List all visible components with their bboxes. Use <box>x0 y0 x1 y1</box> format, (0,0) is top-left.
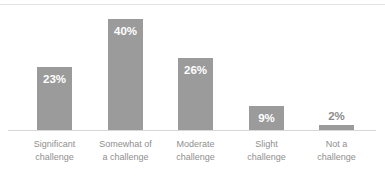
category-label-line-2: challenge <box>232 151 301 164</box>
bar-somewhat-of-a-challenge[interactable]: 40% <box>108 19 143 131</box>
bar-wrap-4: 2% <box>302 8 371 131</box>
bar-slight-challenge[interactable]: 9% <box>249 106 284 131</box>
bar-chart: 23% 40% 26% 9% <box>0 0 385 182</box>
category-label-line-2: challenge <box>20 151 89 164</box>
x-axis-line <box>8 130 376 131</box>
category-label-line-2: a challenge <box>91 151 160 164</box>
bar-wrap-3: 9% <box>232 8 301 131</box>
category-label-not-a-challenge: Not a challenge <box>302 138 371 163</box>
category-label-significant-challenge: Significant challenge <box>20 138 89 163</box>
category-label-somewhat-of-a-challenge: Somewhat of a challenge <box>91 138 160 163</box>
bar-slot-0: 23% <box>20 8 89 131</box>
category-label-line-1: Significant <box>20 138 89 151</box>
bar-wrap-0: 23% <box>20 8 89 131</box>
top-divider-rule <box>0 4 385 5</box>
bar-wrap-1: 40% <box>91 8 160 131</box>
bar-significant-challenge[interactable]: 23% <box>37 67 72 131</box>
bar-slot-3: 9% <box>232 8 301 131</box>
bar-moderate-challenge[interactable]: 26% <box>178 58 213 131</box>
bar-value-label-3: 9% <box>249 112 284 124</box>
bar-slot-1: 40% <box>91 8 160 131</box>
bar-value-label-4: 2% <box>319 110 354 122</box>
category-label-slight-challenge: Slight challenge <box>232 138 301 163</box>
category-label-line-2: challenge <box>161 151 230 164</box>
category-label-line-1: Slight <box>232 138 301 151</box>
category-label-line-1: Not a <box>302 138 371 151</box>
plot-area: 23% 40% 26% 9% <box>0 8 385 131</box>
category-label-line-2: challenge <box>302 151 371 164</box>
category-label-line-1: Somewhat of <box>91 138 160 151</box>
category-axis: Significant challenge Somewhat of a chal… <box>0 138 385 178</box>
category-label-line-1: Moderate <box>161 138 230 151</box>
bar-slot-2: 26% <box>161 8 230 131</box>
bar-value-label-0: 23% <box>37 73 72 85</box>
bar-value-label-2: 26% <box>178 64 213 76</box>
bar-slot-4: 2% <box>302 8 371 131</box>
bar-value-label-1: 40% <box>108 25 143 37</box>
category-label-moderate-challenge: Moderate challenge <box>161 138 230 163</box>
bar-wrap-2: 26% <box>161 8 230 131</box>
